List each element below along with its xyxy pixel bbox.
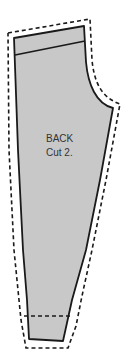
cut-instruction-label: Cut 2. — [46, 146, 73, 159]
piece-name-label: BACK — [46, 132, 73, 145]
pattern-piece-body — [14, 26, 113, 341]
pattern-piece-back — [0, 0, 128, 353]
